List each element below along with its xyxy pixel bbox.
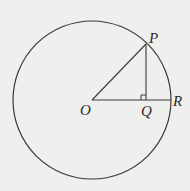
circle-diagram: P O Q R: [0, 0, 190, 191]
label-q: Q: [141, 103, 152, 119]
label-p: P: [148, 30, 158, 46]
label-o: O: [80, 102, 91, 118]
segment-op: [92, 44, 146, 100]
right-angle-marker: [141, 95, 146, 100]
label-r: R: [172, 93, 182, 109]
